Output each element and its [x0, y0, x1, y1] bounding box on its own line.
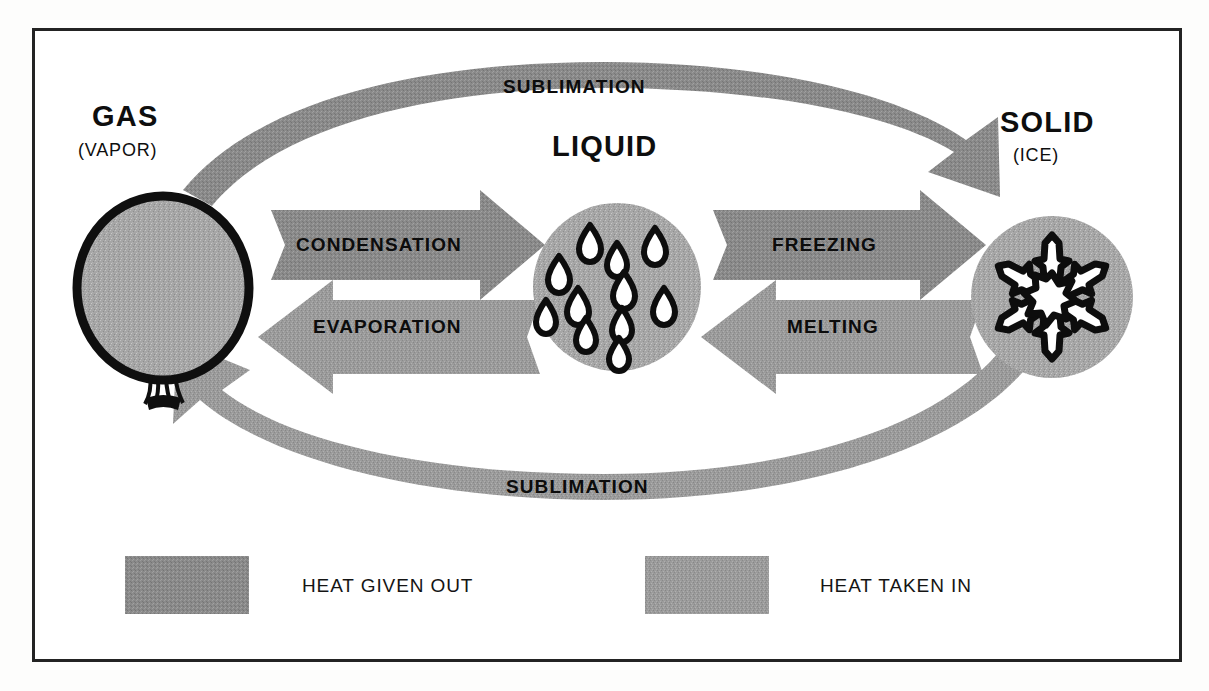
legend-label-heat-taken-in: HEAT TAKEN IN: [820, 575, 972, 597]
state-subtitle-gas: (VAPOR): [78, 140, 157, 161]
state-title-gas: GAS: [92, 100, 158, 133]
arrow-label-evaporation: EVAPORATION: [313, 316, 462, 338]
state-title-solid: SOLID: [1000, 106, 1095, 139]
arrow-label-melting: MELTING: [787, 316, 879, 338]
arrow-label-sublimation-bottom: SUBLIMATION: [506, 476, 649, 498]
state-subtitle-solid: (ICE): [1013, 145, 1059, 166]
legend-label-heat-given-out: HEAT GIVEN OUT: [302, 575, 473, 597]
diagram-canvas: GAS (VAPOR) LIQUID SOLID (ICE) SUBLIMATI…: [0, 0, 1209, 691]
arrow-label-sublimation-top: SUBLIMATION: [503, 76, 646, 98]
arrow-label-freezing: FREEZING: [772, 234, 877, 256]
state-title-liquid: LIQUID: [552, 130, 657, 163]
arrow-label-condensation: CONDENSATION: [296, 234, 462, 256]
